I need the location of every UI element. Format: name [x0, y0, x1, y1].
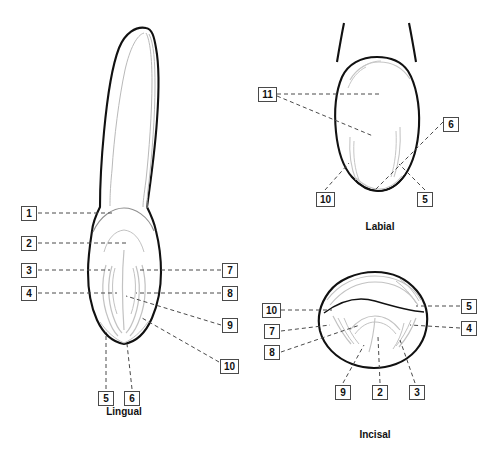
callout-label-incisal-8[interactable]: 8 — [264, 345, 280, 360]
callout-label-lingual-6[interactable]: 6 — [124, 391, 140, 406]
labial-view-group — [277, 23, 443, 191]
view-caption-incisal: Incisal — [335, 429, 415, 440]
callout-label-labial-10[interactable]: 10 — [316, 192, 335, 207]
callout-label-lingual-3[interactable]: 3 — [21, 263, 37, 278]
callout-label-labial-5[interactable]: 5 — [417, 192, 433, 207]
callout-label-incisal-7[interactable]: 7 — [264, 324, 280, 339]
labial-root-left-edge — [337, 23, 344, 62]
labial-root-right-edge — [409, 23, 416, 62]
labial-crown-outline — [335, 57, 419, 191]
callout-label-lingual-2[interactable]: 2 — [21, 236, 37, 251]
callout-label-labial-11[interactable]: 11 — [258, 87, 277, 102]
callout-label-incisal-5[interactable]: 5 — [461, 299, 477, 314]
callout-label-labial-6[interactable]: 6 — [443, 117, 459, 132]
lingual-view-group — [38, 28, 221, 389]
view-caption-labial: Labial — [340, 221, 420, 232]
callout-label-lingual-10[interactable]: 10 — [220, 359, 239, 374]
callout-label-lingual-7[interactable]: 7 — [222, 263, 238, 278]
callout-label-incisal-3[interactable]: 3 — [409, 385, 425, 400]
figure-canvas: 12347891056116105107854923LingualLabialI… — [0, 0, 495, 450]
callout-label-incisal-2[interactable]: 2 — [372, 385, 388, 400]
callout-label-lingual-1[interactable]: 1 — [21, 206, 37, 221]
callout-label-lingual-5[interactable]: 5 — [98, 391, 114, 406]
callout-label-incisal-10[interactable]: 10 — [262, 303, 281, 318]
leader-lingual-10 — [142, 318, 219, 362]
tooth-diagram-svg — [0, 0, 495, 450]
leader-lingual-6 — [127, 344, 132, 389]
incisal-view-group — [281, 272, 460, 383]
leader-labial-10 — [325, 163, 349, 190]
callout-label-incisal-9[interactable]: 9 — [335, 385, 351, 400]
callout-label-lingual-4[interactable]: 4 — [21, 286, 37, 301]
callout-label-lingual-8[interactable]: 8 — [222, 286, 238, 301]
lingual-tooth-outline — [88, 28, 161, 344]
callout-label-lingual-9[interactable]: 9 — [222, 318, 238, 333]
view-caption-lingual: Lingual — [84, 406, 164, 417]
callout-label-incisal-4[interactable]: 4 — [461, 321, 477, 336]
